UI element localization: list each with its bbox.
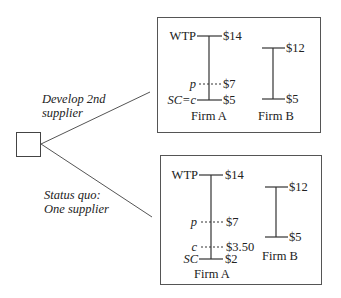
decision-node	[17, 133, 41, 157]
wtp-label: WTP	[170, 29, 196, 43]
firm-b-top-value: $12	[289, 180, 308, 194]
firm-b-top-value: $12	[286, 41, 305, 55]
sc-value: $5	[223, 93, 236, 107]
firm-a-label: Firm A	[191, 109, 227, 123]
p-label: p	[189, 77, 196, 91]
firm-b-label: Firm B	[262, 249, 298, 263]
decision-tree-diagram: Develop 2nd supplier Status quo: One sup…	[0, 0, 341, 298]
wtp-label: WTP	[172, 168, 198, 182]
wtp-value: $14	[225, 168, 245, 182]
sc-value: $2	[225, 252, 238, 266]
p-value: $7	[226, 215, 239, 229]
sc-label: SC=c	[167, 93, 196, 107]
sc-label: SC	[183, 252, 198, 266]
branch-label-develop-2: supplier	[42, 106, 83, 120]
branch-label-status-1: Status quo:	[44, 188, 101, 202]
branch-label-develop-1: Develop 2nd	[41, 92, 106, 106]
wtp-value: $14	[223, 29, 243, 43]
firm-b-bottom-value: $5	[286, 92, 299, 106]
firm-a-label: Firm A	[194, 267, 230, 281]
scenario-box-status-quo: WTP $14 p $7 c $3.50 SC $2 Firm A $12 $5…	[161, 156, 322, 285]
firm-b-bottom-value: $5	[289, 230, 302, 244]
branch-label-status-2: One supplier	[44, 202, 109, 216]
p-value: $7	[223, 77, 236, 91]
firm-b-label: Firm B	[258, 109, 294, 123]
p-label: p	[190, 215, 197, 229]
scenario-box-develop: WTP $14 p $7 SC=c $5 Firm A $12 $5 Firm …	[158, 18, 321, 133]
